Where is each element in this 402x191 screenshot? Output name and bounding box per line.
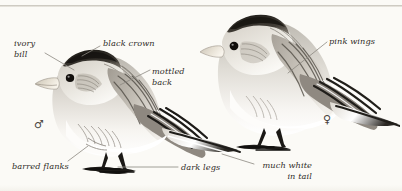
field-guide-plate: ivory bill black crown mottled back pink…	[0, 0, 402, 191]
page-top-rule	[0, 5, 402, 7]
female-symbol: ♀	[323, 113, 331, 126]
label-ivory-bill: ivory bill	[14, 38, 35, 59]
label-dark-legs: dark legs	[181, 162, 220, 173]
label-barred-flanks: barred flanks	[12, 161, 69, 172]
label-black-crown: black crown	[103, 38, 155, 49]
label-mottled-back: mottled back	[152, 66, 185, 87]
page-bottom-fade	[0, 185, 402, 191]
female-bunting-illustration	[200, 8, 400, 153]
male-symbol: ♂	[34, 118, 44, 131]
label-pink-wings: pink wings	[329, 36, 375, 47]
label-much-white-in-tail: much white in tail	[246, 160, 312, 181]
